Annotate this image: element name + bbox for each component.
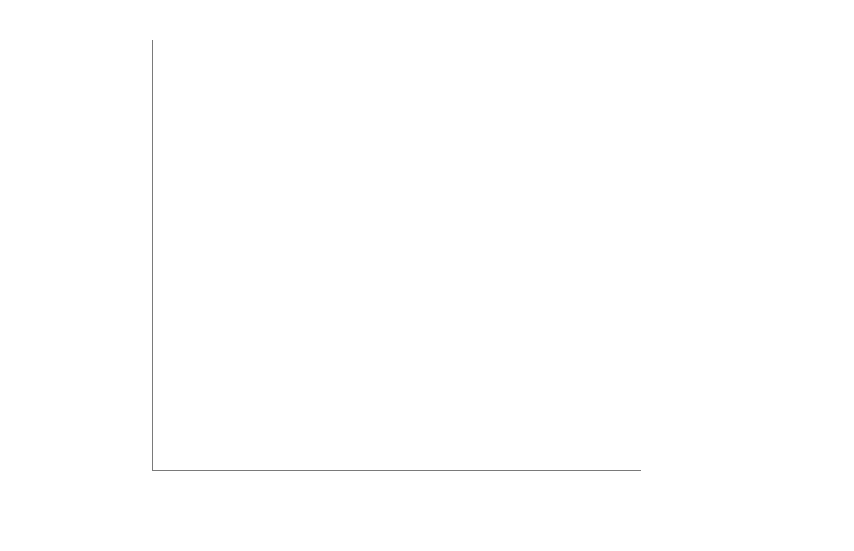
chart-container xyxy=(0,0,854,551)
y-axis-tick-labels xyxy=(0,0,146,551)
plot-svg xyxy=(152,40,640,471)
plot-area xyxy=(152,40,640,470)
